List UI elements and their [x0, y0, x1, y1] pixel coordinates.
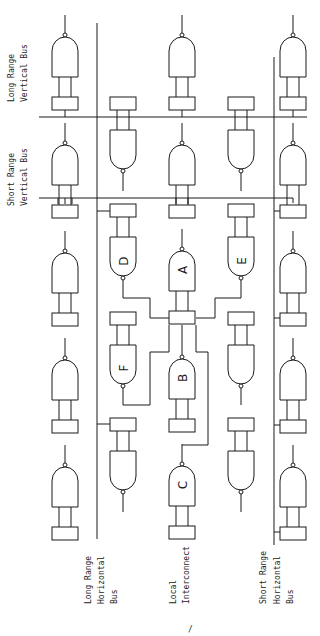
gate-D	[110, 204, 136, 280]
footer-mark: /	[188, 625, 193, 634]
horizontal-bus-labels: Long Range Horizontal Bus Local Intercon…	[84, 546, 295, 604]
gate-letter-D: D	[117, 256, 131, 265]
column-1	[52, 15, 78, 540]
gate-c1-r4	[52, 338, 78, 433]
label-short-range-1: Short Range	[7, 153, 16, 206]
gate-c4-r4	[228, 418, 254, 494]
gate-c5-r2	[280, 123, 306, 218]
gate-letter-F: F	[117, 364, 131, 371]
gate-F	[110, 312, 136, 388]
gate-c3-r2	[169, 123, 195, 218]
label-lrh-2: Horizontal	[97, 556, 106, 604]
gate-A	[169, 229, 195, 324]
gate-letter-E: E	[235, 257, 249, 265]
label-long-range-2: Vertical Bus	[20, 44, 29, 102]
gate-letter-C: C	[176, 481, 190, 489]
gate-c5-r3	[280, 231, 306, 326]
gate-letter-B: B	[176, 374, 190, 382]
vertical-bus-labels: Long Range Vertical Bus Short Range Vert…	[7, 44, 29, 206]
gate-letter-A: A	[176, 265, 190, 274]
label-short-range-2: Vertical Bus	[20, 148, 29, 206]
gate-c1-r1	[52, 15, 78, 110]
gate-c2-r4	[110, 418, 136, 494]
column-2	[97, 97, 136, 512]
label-local-1: Local	[169, 580, 178, 604]
gate-c3-r1	[169, 15, 195, 110]
label-srh-2: Horizontal	[273, 556, 282, 604]
label-srh-3: Bus	[286, 589, 295, 604]
gate-c1-r3	[52, 231, 78, 326]
column-3	[169, 15, 195, 539]
label-srh-1: Short Range	[259, 551, 268, 604]
gate-c1-r5	[52, 445, 78, 540]
gate-c5-r4	[280, 338, 306, 433]
gate-C	[169, 444, 195, 539]
gate-c4-r1	[228, 97, 254, 173]
column-5	[274, 15, 306, 540]
fpga-interconnect-diagram: D A E F B C Long Range Vertical Bus Shor…	[0, 0, 320, 636]
gate-c2-r1	[110, 97, 136, 173]
column-4	[228, 97, 254, 512]
gate-c5-r1	[280, 15, 306, 110]
label-local-2: Interconnect	[182, 546, 191, 604]
gate-B	[169, 337, 195, 432]
gate-E	[228, 204, 254, 280]
gate-c5-r5	[280, 445, 306, 540]
label-long-range-1: Long Range	[7, 54, 16, 102]
label-lrh-3: Bus	[110, 589, 119, 604]
label-lrh-1: Long Range	[84, 556, 93, 604]
gate-c4-r3	[228, 312, 254, 388]
